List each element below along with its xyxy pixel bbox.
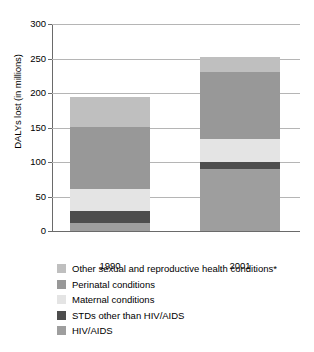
axis-area: 300 250 200 150 100 50 0 (52, 24, 300, 231)
y-tick-label-50: 50 (0, 192, 46, 202)
tickmark-200 (48, 93, 52, 94)
legend-swatch-other-sexual (57, 264, 66, 273)
y-tick-label-300: 300 (0, 19, 46, 29)
legend-item-other-sexual[interactable]: Other sexual and reproductive health con… (57, 261, 312, 277)
bar-segment-hiv-aids-2001[interactable] (200, 169, 280, 231)
legend-label-stds: STDs other than HIV/AIDS (72, 311, 184, 321)
legend-swatch-stds (57, 311, 66, 320)
chart-legend: Other sexual and reproductive health con… (57, 261, 312, 339)
legend-item-maternal[interactable]: Maternal conditions (57, 292, 312, 308)
bar-segment-maternal-2001[interactable] (200, 139, 280, 162)
y-tick-label-200: 200 (0, 88, 46, 98)
legend-item-stds[interactable]: STDs other than HIV/AIDS (57, 308, 312, 324)
bar-segment-perinatal-1990[interactable] (70, 127, 150, 189)
legend-swatch-hiv-aids (57, 326, 66, 335)
legend-label-other-sexual: Other sexual and reproductive health con… (72, 264, 277, 274)
bar-segment-hiv-aids-1990[interactable] (70, 223, 150, 231)
tickmark-300 (48, 24, 52, 25)
y-tick-label-100: 100 (0, 157, 46, 167)
bar-segment-maternal-1990[interactable] (70, 189, 150, 211)
tickmark-250 (48, 59, 52, 60)
bar-segment-stds-1990[interactable] (70, 211, 150, 223)
tickmark-100 (48, 162, 52, 163)
legend-swatch-maternal (57, 295, 66, 304)
legend-item-hiv-aids[interactable]: HIV/AIDS (57, 323, 312, 339)
chart-figure: DALYs lost (in millions) 300 250 200 150… (0, 0, 314, 352)
y-tick-label-250: 250 (0, 54, 46, 64)
y-tick-label-150: 150 (0, 123, 46, 133)
tickmark-150 (48, 128, 52, 129)
y-tick-label-0: 0 (0, 226, 46, 236)
legend-item-perinatal[interactable]: Perinatal conditions (57, 277, 312, 293)
legend-swatch-perinatal (57, 280, 66, 289)
bar-segment-stds-2001[interactable] (200, 162, 280, 169)
gridline-0 (52, 231, 300, 232)
tickmark-50 (48, 197, 52, 198)
bar-segment-other-sexual-2001[interactable] (200, 57, 280, 72)
legend-label-hiv-aids: HIV/AIDS (72, 326, 113, 336)
bar-segment-perinatal-2001[interactable] (200, 72, 280, 140)
legend-label-perinatal: Perinatal conditions (72, 280, 155, 290)
legend-label-maternal: Maternal conditions (72, 295, 154, 305)
bar-2001[interactable] (200, 57, 280, 231)
tickmark-0 (48, 231, 52, 232)
gridline-300 (52, 24, 300, 25)
plot-area: DALYs lost (in millions) 300 250 200 150… (0, 0, 314, 252)
bar-segment-other-sexual-1990[interactable] (70, 97, 150, 127)
bar-1990[interactable] (70, 97, 150, 231)
